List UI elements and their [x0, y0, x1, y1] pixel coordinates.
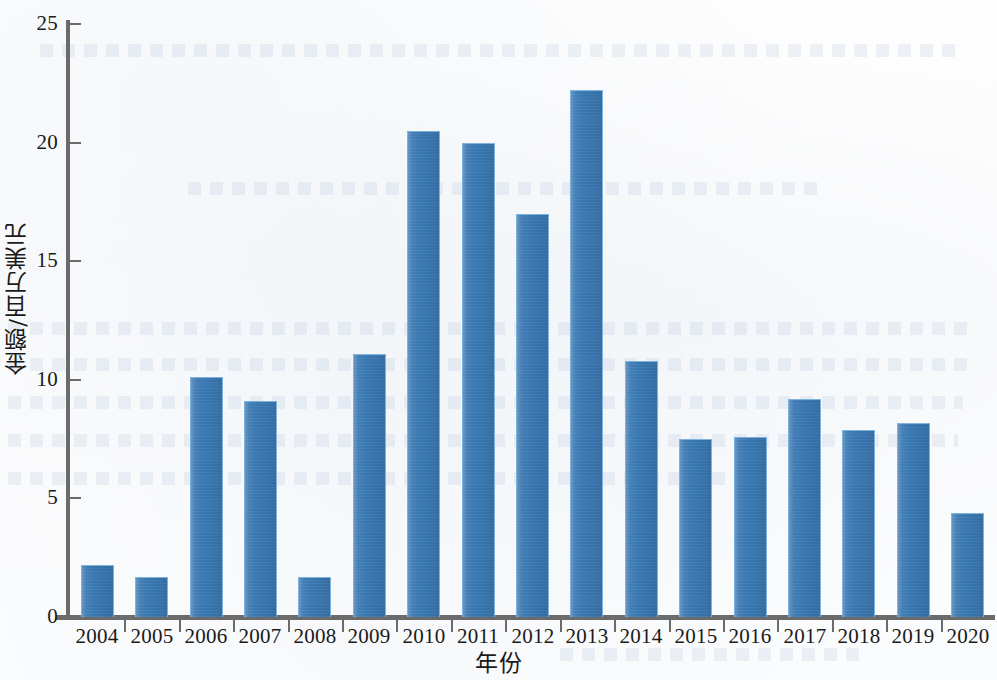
bar	[135, 577, 168, 617]
y-axis-tick-label: 20	[0, 132, 58, 153]
bar	[734, 437, 767, 617]
y-axis-tick-label: 0	[0, 606, 58, 627]
bar	[570, 90, 603, 617]
bar	[298, 577, 331, 617]
y-axis-tick-label: 25	[0, 13, 58, 34]
plot-area	[66, 24, 991, 617]
bar	[81, 565, 114, 617]
bar	[625, 361, 658, 617]
y-axis-tick-label-text: 25	[14, 13, 58, 34]
bar-chart: 0510152025 20042005200620072008200920102…	[0, 0, 997, 680]
x-axis-tick-label: 2020	[934, 624, 997, 648]
bar	[516, 214, 549, 617]
bar	[353, 354, 386, 617]
bar	[244, 401, 277, 617]
y-axis-title: 金额/百万美元	[2, 222, 32, 375]
bar	[462, 143, 495, 617]
x-axis-title: 年份	[0, 650, 997, 676]
bar	[897, 423, 930, 618]
y-axis-tick-label-text: 5	[14, 487, 58, 508]
bar	[679, 439, 712, 617]
bar	[788, 399, 821, 617]
y-axis-tick-label-text: 0	[14, 606, 58, 627]
y-axis-tick-label: 5	[0, 487, 58, 508]
bar	[407, 131, 440, 617]
bar	[951, 513, 984, 617]
y-axis-tick-label-text: 20	[14, 132, 58, 153]
bar	[842, 430, 875, 617]
bar	[190, 377, 223, 617]
